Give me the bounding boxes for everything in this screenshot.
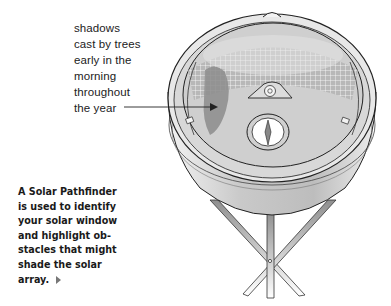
top-knob (263, 13, 281, 18)
compass-icon (247, 114, 289, 150)
solar-pathfinder-illustration (0, 0, 391, 306)
